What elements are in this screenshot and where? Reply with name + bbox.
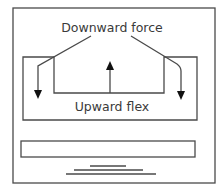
label-downward-force: Downward force	[61, 20, 163, 35]
arrowhead-up-icon	[106, 61, 114, 70]
label-upward-flex: Upward flex	[75, 99, 150, 114]
downward-arrow-left-icon	[38, 36, 91, 92]
base-bar	[21, 141, 195, 157]
flex-diagram: Downward force Upward flex	[0, 0, 224, 195]
downward-arrow-right-icon	[131, 36, 181, 93]
arrowhead-down-left-icon	[34, 90, 42, 99]
arrowhead-down-right-icon	[177, 91, 185, 100]
